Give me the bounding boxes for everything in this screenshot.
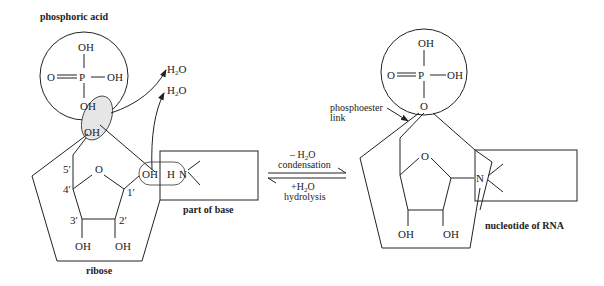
nucleotide-label: nucleotide of RNA bbox=[485, 220, 565, 231]
left-reactants: phosphoric acid OH O P OH OH OH H2O H2O … bbox=[32, 11, 258, 276]
c1-label: 1′ bbox=[127, 186, 135, 198]
phosphate-bottom-oh: OH bbox=[80, 100, 96, 112]
hydrolysis-label: hydrolysis bbox=[284, 191, 326, 202]
c3-oh: OH bbox=[398, 228, 414, 240]
pentagon-edge bbox=[433, 113, 475, 150]
rna-nucleotide-formation-diagram: phosphoric acid OH O P OH OH OH H2O H2O … bbox=[0, 0, 604, 286]
phosphoester-label-line2: link bbox=[330, 112, 346, 123]
phosphate-right-oh: OH bbox=[107, 71, 123, 83]
nucleotide-pentagon bbox=[360, 113, 480, 248]
phosphate-ester-oxygen: O bbox=[420, 100, 428, 112]
phosphate-top-oh: OH bbox=[418, 37, 434, 49]
c2-oh: OH bbox=[115, 240, 131, 252]
water-2: H2O bbox=[167, 84, 186, 98]
phosphate-double-o: O bbox=[47, 71, 55, 83]
ribose-label: ribose bbox=[86, 265, 113, 276]
c3-oh: OH bbox=[75, 240, 91, 252]
water-release-arrow-2 bbox=[152, 93, 164, 170]
ring-oxygen: O bbox=[421, 150, 429, 162]
sugar-5-oh: OH bbox=[84, 126, 100, 138]
c2-oh: OH bbox=[443, 228, 459, 240]
phosphate-right-oh: OH bbox=[447, 69, 463, 81]
water-1: H2O bbox=[167, 63, 186, 77]
phosphate-top-oh: OH bbox=[78, 41, 94, 53]
ribose-pentagon-edge bbox=[100, 125, 155, 172]
c1-oh: OH bbox=[142, 168, 158, 180]
reaction-arrows: – H2O condensation +H2O hydrolysis bbox=[268, 149, 346, 202]
c5-chain bbox=[400, 113, 424, 175]
phosphoric-acid-label: phosphoric acid bbox=[40, 11, 109, 22]
ribose-pentagon bbox=[32, 134, 160, 261]
c4-label: 4′ bbox=[63, 183, 71, 195]
c2-label: 2′ bbox=[119, 214, 127, 226]
condensation-label: condensation bbox=[278, 159, 331, 170]
phosphorus-atom: P bbox=[79, 71, 85, 83]
part-of-base-label: part of base bbox=[183, 204, 234, 215]
phosphorus-atom: P bbox=[418, 69, 424, 81]
base-h: H bbox=[167, 168, 175, 180]
ring-oxygen: O bbox=[95, 163, 103, 175]
c3-label: 3′ bbox=[70, 214, 78, 226]
phosphate-double-o: O bbox=[387, 69, 395, 81]
c5-label: 5′ bbox=[63, 163, 71, 175]
base-rectangle bbox=[475, 150, 577, 201]
right-product: OH O P OH O phosphoester link O OH OH N bbox=[330, 29, 577, 248]
base-n: N bbox=[179, 168, 187, 180]
base-n: N bbox=[476, 172, 484, 184]
